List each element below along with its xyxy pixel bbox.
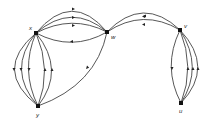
graph-diagram: x w v u y (0, 0, 214, 123)
node-u: u (179, 101, 183, 114)
edges-x-y (13, 33, 54, 106)
node-label-v: v (184, 23, 188, 29)
edges-v-u (171, 30, 200, 103)
edge-w-y (38, 32, 107, 106)
node-label-w: w (111, 34, 116, 40)
node-label-y: y (35, 112, 40, 118)
node-label-u: u (179, 108, 183, 114)
node-y: y (35, 104, 40, 118)
node-label-x: x (28, 25, 33, 31)
edges-v-w (107, 13, 180, 32)
node-v: v (178, 23, 188, 32)
edges-x-w (36, 8, 107, 44)
node-x: x (28, 25, 38, 35)
